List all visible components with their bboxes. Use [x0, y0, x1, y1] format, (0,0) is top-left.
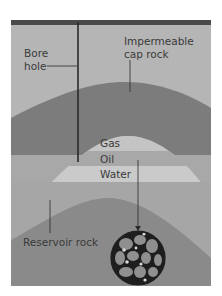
bore-hole-label-line2: hole — [24, 60, 46, 72]
cap-rock-label-line1: Impermeable — [124, 35, 194, 47]
gas-label: Gas — [100, 137, 120, 149]
reservoir-rock-label: Reservoir rock — [23, 236, 99, 248]
oil-label: Oil — [100, 153, 114, 165]
pore-magnification-icon — [111, 231, 165, 285]
bore-hole-label-line1: Bore — [24, 47, 48, 59]
oil-trap-diagram: Bore hole Impermeable cap rock Gas Oil W… — [0, 0, 222, 296]
ground-surface-bar — [11, 20, 211, 25]
cap-rock-label-line2: cap rock — [124, 48, 169, 60]
water-label: Water — [100, 168, 132, 180]
